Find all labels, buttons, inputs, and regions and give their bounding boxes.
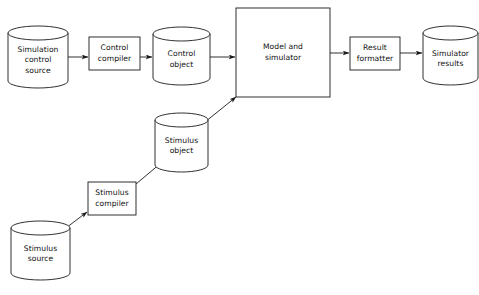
diagram-canvas: Simulation control sourceControl compile…: [0, 0, 479, 295]
cylinder-top-ellipse: [153, 27, 210, 41]
diagram-svg: [0, 0, 479, 295]
process-box-shape: [89, 37, 140, 70]
node-model-and-simulator[interactable]: [236, 8, 330, 97]
cylinder-body-shape: [153, 34, 210, 85]
node-result-formatter[interactable]: [350, 37, 400, 70]
cylinder-body-shape: [155, 120, 208, 172]
cylinder-top-ellipse: [8, 26, 68, 40]
node-stimulus-compiler[interactable]: [88, 182, 136, 215]
process-box-shape: [236, 8, 330, 97]
node-simulation-control-source[interactable]: [8, 26, 68, 88]
edge-arrow: [205, 97, 236, 122]
nodes-layer: [8, 8, 478, 280]
process-box-shape: [88, 182, 136, 215]
cylinder-body-shape: [423, 33, 478, 85]
cylinder-top-ellipse: [423, 26, 478, 40]
cylinder-body-shape: [11, 228, 70, 280]
cylinder-body-shape: [8, 33, 68, 88]
node-stimulus-object[interactable]: [155, 113, 208, 172]
cylinder-top-ellipse: [11, 221, 70, 235]
node-stimulus-source[interactable]: [11, 221, 70, 280]
node-control-compiler[interactable]: [89, 37, 140, 70]
node-simulator-results[interactable]: [423, 26, 478, 85]
node-control-object[interactable]: [153, 27, 210, 85]
process-box-shape: [350, 37, 400, 70]
cylinder-top-ellipse: [155, 113, 208, 127]
